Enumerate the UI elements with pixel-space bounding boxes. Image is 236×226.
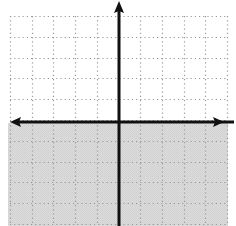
- coordinate-plane: [0, 0, 236, 226]
